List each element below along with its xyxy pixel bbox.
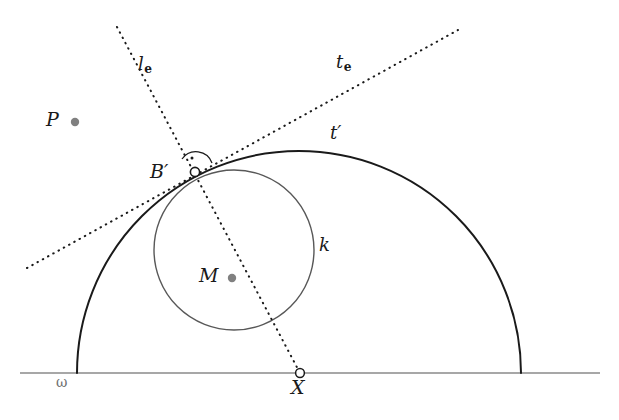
t-prime-arc xyxy=(77,151,521,373)
point-marker-M xyxy=(228,274,236,282)
point-marker-B-prime xyxy=(190,167,199,176)
label-circle-k: k xyxy=(319,236,330,254)
line-t-e xyxy=(27,30,458,268)
label-line-l-e: le xyxy=(138,55,152,75)
figure-canvas xyxy=(0,0,619,420)
label-point-X: X xyxy=(291,378,305,397)
label-line-l-e-sub: e xyxy=(144,62,152,76)
point-marker-P xyxy=(71,118,79,126)
label-curve-t-prime: t′ xyxy=(330,124,341,142)
right-angle-marker-icon xyxy=(182,152,212,163)
label-baseline-omega: ω xyxy=(56,375,67,389)
label-point-B-prime: B′ xyxy=(150,162,168,181)
label-point-P: P xyxy=(46,110,59,129)
line-l-e xyxy=(117,27,300,373)
label-line-t-e-main: t xyxy=(336,51,343,72)
label-line-l-e-main: l xyxy=(138,53,144,74)
label-line-t-e-sub: e xyxy=(344,60,352,74)
label-point-M: M xyxy=(199,266,218,285)
geometry-figure: P B′ M X k t′ ω le te xyxy=(0,0,619,420)
label-line-t-e: te xyxy=(336,53,352,73)
